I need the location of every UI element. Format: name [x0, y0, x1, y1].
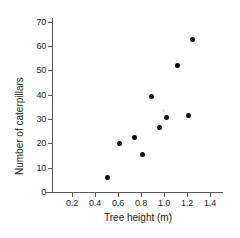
y-tick-label-70: 70 — [24, 17, 46, 27]
data-point — [149, 94, 154, 99]
y-tick-40 — [48, 95, 52, 96]
x-tick-label-0.8: 0.8 — [129, 198, 153, 208]
y-tick-label-40: 40 — [24, 90, 46, 100]
y-tick-60 — [48, 46, 52, 47]
data-point — [105, 175, 110, 180]
x-tick-1.4 — [210, 193, 211, 197]
x-tick-0.2 — [72, 193, 73, 197]
x-tick-label-0.4: 0.4 — [83, 198, 107, 208]
x-tick-0.4 — [95, 193, 96, 197]
data-point — [175, 63, 180, 68]
y-axis-line — [52, 18, 53, 193]
x-axis-title: Tree height (m) — [52, 212, 224, 223]
data-point — [117, 141, 122, 146]
x-tick-label-0.6: 0.6 — [106, 198, 130, 208]
x-tick-1.0 — [164, 193, 165, 197]
y-tick-label-30: 30 — [24, 114, 46, 124]
y-tick-label-50: 50 — [24, 65, 46, 75]
y-tick-label-0: 0 — [24, 187, 46, 197]
data-point — [190, 37, 195, 42]
data-point — [140, 152, 145, 157]
y-tick-0 — [48, 192, 52, 193]
data-point — [164, 115, 169, 120]
data-point — [157, 125, 162, 130]
y-tick-70 — [48, 22, 52, 23]
x-tick-0.8 — [141, 193, 142, 197]
y-tick-label-10: 10 — [24, 163, 46, 173]
x-tick-label-0.2: 0.2 — [60, 198, 84, 208]
data-point — [132, 135, 137, 140]
x-tick-1.2 — [187, 193, 188, 197]
x-tick-label-1.0: 1.0 — [152, 198, 176, 208]
y-tick-20 — [48, 143, 52, 144]
scatter-plot-figure: 70 60 50 40 30 20 10 0 0.2 0.4 0.6 0.8 1… — [0, 0, 240, 238]
y-tick-30 — [48, 119, 52, 120]
x-tick-label-1.4: 1.4 — [198, 198, 222, 208]
y-tick-label-20: 20 — [24, 138, 46, 148]
y-tick-50 — [48, 70, 52, 71]
plot-area: 70 60 50 40 30 20 10 0 0.2 0.4 0.6 0.8 1… — [0, 0, 240, 238]
data-point — [186, 113, 191, 118]
y-tick-label-60: 60 — [24, 41, 46, 51]
y-tick-10 — [48, 168, 52, 169]
x-tick-label-1.2: 1.2 — [175, 198, 199, 208]
y-axis-title: Number of caterpillars — [14, 77, 25, 175]
scan-artifact-speck — [162, 109, 165, 112]
x-tick-0.6 — [118, 193, 119, 197]
